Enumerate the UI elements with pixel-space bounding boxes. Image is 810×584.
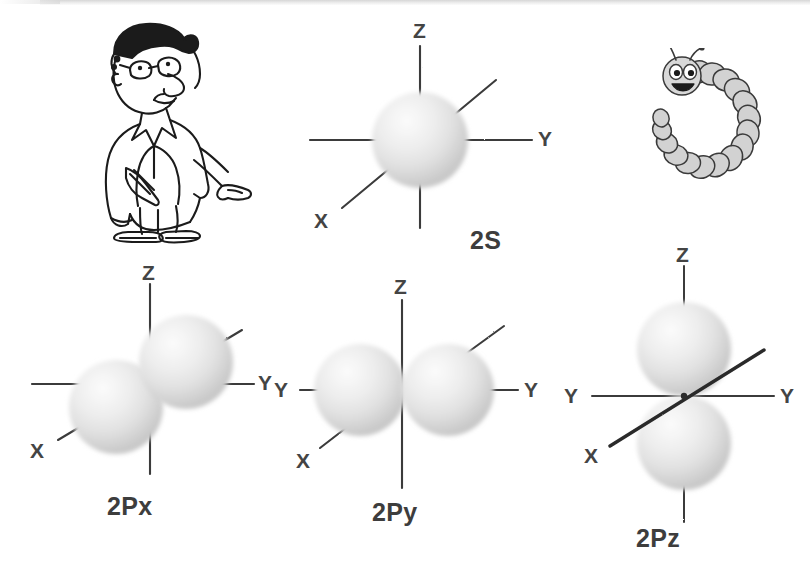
- orbital-2s: Z Y X 2S: [300, 18, 560, 268]
- axis-label-y-right: Y: [524, 379, 538, 400]
- axis-label-z: Z: [676, 244, 689, 265]
- orbital-name-2py: 2Py: [372, 500, 417, 525]
- axis-label-z: Z: [394, 276, 407, 297]
- axis-label-x: X: [584, 445, 598, 466]
- scan-edge-fade: [0, 0, 60, 4]
- cartoon-scientist: [70, 18, 260, 248]
- axis-label-y-left: Y: [564, 385, 578, 406]
- axis-label-y-left: Y: [274, 379, 288, 400]
- axis-label-y: Y: [538, 128, 552, 149]
- axis-label-x: X: [296, 450, 310, 471]
- axis-label-x: X: [30, 440, 44, 461]
- scan-edge-shadow: [40, 0, 810, 5]
- orbital-name-2s: 2S: [470, 228, 501, 253]
- orbital-lobe: [637, 302, 731, 396]
- orbital-lobe: [402, 344, 494, 436]
- orbital-lobe: [314, 344, 406, 436]
- orbital-lobe: [637, 396, 731, 490]
- axis-label-y-right: Y: [780, 385, 794, 406]
- orbital-name-2px: 2Px: [107, 494, 152, 519]
- cartoon-caterpillar: [638, 48, 788, 188]
- orbital-name-2pz: 2Pz: [636, 526, 680, 551]
- bottom-caption: [195, 566, 625, 578]
- axis-label-y: Y: [258, 372, 272, 393]
- axis-label-x: X: [314, 210, 328, 231]
- orbital-2py: Z Y Y X 2Py: [272, 262, 542, 542]
- orbital-figure: Z Y X 2S Z Y X 2Px: [0, 0, 810, 584]
- orbital-2pz: Z Y Y X 2Pz: [548, 236, 810, 546]
- orbital-lobe: [139, 315, 233, 409]
- axis-label-z: Z: [142, 262, 155, 283]
- orbital-2px: Z Y X 2Px: [10, 262, 270, 542]
- axis-label-z: Z: [413, 20, 426, 41]
- orbital-lobe: [372, 92, 468, 188]
